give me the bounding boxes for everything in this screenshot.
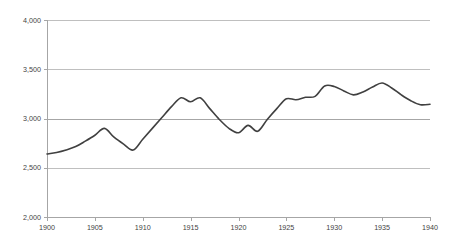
tick-marks (44, 21, 431, 221)
x-axis-tick-label: 1925 (278, 223, 294, 232)
y-axis-tick-label: 4,000 (23, 16, 41, 25)
x-axis-tick-label: 1915 (183, 223, 199, 232)
x-axis-tick-label: 1930 (326, 223, 342, 232)
x-axis-tick-label: 1905 (87, 223, 103, 232)
chart-canvas: 2,0002,5003,0003,5004,000 19001905191019… (0, 0, 455, 251)
y-axis-tick-label: 3,500 (23, 65, 41, 74)
x-axis-labels: 190019051910191519201925193019351940 (39, 223, 438, 232)
x-axis-tick-label: 1935 (374, 223, 390, 232)
x-axis-tick-label: 1920 (231, 223, 247, 232)
x-axis-tick-label: 1940 (422, 223, 438, 232)
y-axis-labels: 2,0002,5003,0003,5004,000 (23, 16, 41, 222)
y-axis-tick-label: 3,000 (23, 114, 41, 123)
data-series (47, 83, 430, 154)
gridlines (47, 21, 430, 169)
x-axis-tick-label: 1900 (39, 223, 55, 232)
y-axis-tick-label: 2,500 (23, 163, 41, 172)
line-chart: 2,0002,5003,0003,5004,000 19001905191019… (0, 0, 455, 251)
axes (47, 20, 430, 218)
y-axis-tick-label: 2,000 (23, 213, 41, 222)
x-axis-tick-label: 1910 (135, 223, 151, 232)
series-line-value (47, 83, 430, 154)
